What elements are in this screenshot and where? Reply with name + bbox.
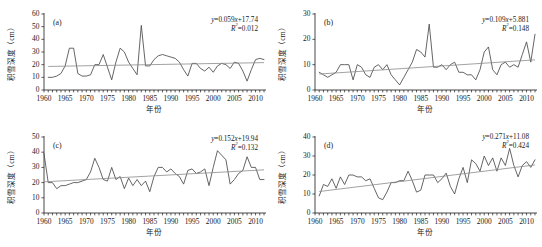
y-tick-label: 20 (32, 60, 40, 69)
y-axis-ticks: 01020304050 (32, 132, 44, 217)
x-tick-label: 1975 (100, 217, 115, 226)
regression-annotation: y=0.059x+17.74R2=0.012 (210, 16, 258, 33)
x-tick-label: 2010 (519, 94, 534, 103)
x-tick-label: 1980 (121, 217, 136, 226)
chart-panel-a: 0102030405060196019651970197519801985199… (0, 0, 271, 123)
panel-label: (c) (53, 141, 62, 150)
x-tick-label: 2005 (227, 94, 242, 103)
x-tick-label: 2000 (477, 217, 492, 226)
x-tick-label: 2010 (248, 94, 263, 103)
y-tick-label: 30 (32, 47, 40, 56)
x-tick-label: 1990 (164, 217, 179, 226)
x-tick-label: 2005 (227, 217, 242, 226)
plot-area: 0102030196019651970197519801985199019952… (271, 0, 542, 123)
x-tick-label: 2000 (206, 217, 221, 226)
x-tick-label: 1985 (413, 94, 428, 103)
y-tick-label: 10 (32, 193, 40, 202)
plot-area: 0102030401960196519701975198019851990199… (271, 123, 542, 246)
x-tick-label: 1980 (392, 217, 407, 226)
x-axis-title: 年份 (146, 104, 162, 114)
y-tick-label: 50 (32, 22, 40, 31)
y-tick-label: 40 (303, 132, 311, 141)
x-axis-ticks: 1960196519701975198019851990199520002005… (37, 90, 264, 103)
y-tick-label: 10 (303, 60, 311, 69)
x-axis-title: 年份 (146, 227, 162, 237)
y-tick-label: 40 (32, 34, 40, 43)
x-tick-label: 1970 (79, 217, 94, 226)
x-tick-label: 1985 (413, 217, 428, 226)
x-tick-label: 1965 (329, 94, 344, 103)
x-tick-label: 1975 (371, 217, 386, 226)
x-tick-label: 1970 (350, 94, 365, 103)
y-tick-label: 30 (303, 151, 311, 160)
x-axis-title: 年份 (417, 227, 433, 237)
x-tick-label: 1975 (100, 94, 115, 103)
x-axis-ticks: 1960196519701975198019851990199520002005… (37, 213, 264, 226)
y-tick-label: 0 (36, 85, 40, 94)
x-tick-label: 2010 (519, 217, 534, 226)
x-tick-label: 1980 (121, 94, 136, 103)
x-tick-label: 1965 (58, 217, 73, 226)
chart-panel-b: 0102030196019651970197519801985199019952… (271, 0, 542, 123)
data-series-line (44, 151, 264, 192)
panel-label: (d) (324, 141, 333, 150)
y-tick-label: 0 (307, 208, 311, 217)
x-tick-label: 2000 (477, 94, 492, 103)
y-tick-label: 20 (303, 34, 311, 43)
plot-area: 0102030405019601965197019751980198519901… (0, 123, 271, 246)
regression-equation: y=0.059x+17.74 (210, 16, 258, 24)
x-tick-label: 2000 (206, 94, 221, 103)
panel-label: (a) (53, 18, 62, 27)
x-tick-label: 1970 (79, 94, 94, 103)
chart-panel-c: 0102030405019601965197019751980198519901… (0, 123, 271, 246)
x-tick-label: 1980 (392, 94, 407, 103)
x-tick-label: 2010 (248, 217, 263, 226)
x-axis-title: 年份 (417, 104, 433, 114)
regression-annotation: y=0.152x+19.94R2=0.132 (210, 135, 258, 152)
x-tick-label: 1975 (371, 94, 386, 103)
x-tick-label: 1960 (308, 94, 323, 103)
x-axis-ticks: 1960196519701975198019851990199520002005… (308, 213, 535, 226)
data-series-line (48, 25, 264, 81)
regression-equation: y=0.152x+19.94 (210, 135, 258, 143)
panel-label: (b) (324, 18, 333, 27)
y-tick-label: 50 (32, 132, 40, 141)
x-tick-label: 1960 (37, 217, 52, 226)
x-tick-label: 1995 (456, 217, 471, 226)
x-tick-label: 1990 (435, 94, 450, 103)
x-tick-label: 1995 (456, 94, 471, 103)
plot-area: 0102030405060196019651970197519801985199… (0, 0, 271, 123)
y-axis-ticks: 0102030405060 (32, 9, 44, 94)
x-tick-label: 1960 (37, 94, 52, 103)
y-tick-label: 0 (307, 85, 311, 94)
x-axis-ticks: 1960196519701975198019851990199520002005… (308, 90, 535, 103)
y-axis-title: 积雪深度（cm） (6, 23, 16, 80)
y-axis-ticks: 010203040 (303, 132, 315, 217)
x-tick-label: 1985 (142, 94, 157, 103)
y-tick-label: 30 (32, 162, 40, 171)
trend-line (319, 165, 535, 192)
y-tick-label: 20 (303, 170, 311, 179)
regression-annotation: y=0.109x+5.881R2=0.148 (481, 16, 529, 33)
regression-equation: y=0.109x+5.881 (481, 16, 529, 24)
y-axis-ticks: 0102030 (303, 9, 315, 94)
y-axis-title: 积雪深度（cm） (6, 146, 16, 203)
x-tick-label: 2005 (498, 217, 513, 226)
trend-line (319, 60, 535, 74)
x-tick-label: 1970 (350, 217, 365, 226)
x-tick-label: 1985 (142, 217, 157, 226)
trend-line (44, 170, 264, 182)
data-series-line (319, 148, 535, 199)
y-axis-title: 积雪深度（cm） (277, 23, 287, 80)
x-tick-label: 1990 (435, 217, 450, 226)
x-tick-label: 1995 (185, 94, 200, 103)
y-tick-label: 30 (303, 9, 311, 18)
y-tick-label: 10 (32, 72, 40, 81)
y-tick-label: 40 (32, 147, 40, 156)
figure-snow-depth-trends: 0102030405060196019651970197519801985199… (0, 0, 542, 247)
y-tick-label: 0 (36, 208, 40, 217)
y-tick-label: 60 (32, 9, 40, 18)
x-tick-label: 1995 (185, 217, 200, 226)
y-tick-label: 20 (32, 178, 40, 187)
y-axis-title: 积雪深度（cm） (277, 146, 287, 203)
